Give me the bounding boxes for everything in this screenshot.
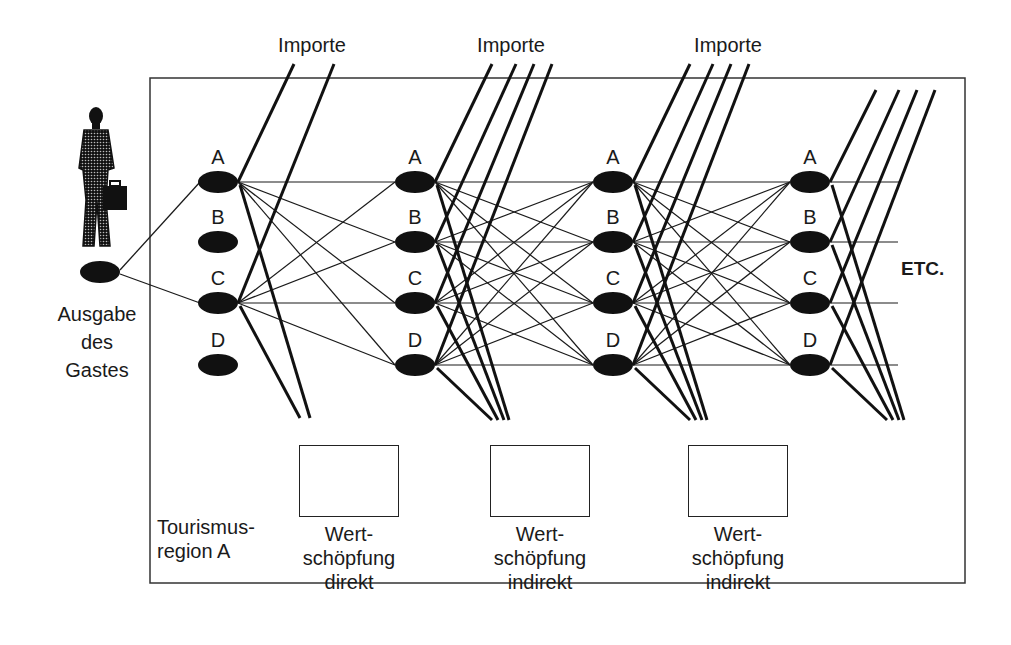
node-col3-c [593,292,633,314]
caption-line: Wert- [692,522,784,546]
guest-caption: Ausgabe des Gastes [58,300,137,384]
imports-label-3: Importe [694,34,762,57]
node-col4-d [790,354,830,376]
guest-caption-line-3: Gastes [58,356,137,384]
node-label-col1-d: D [208,329,228,352]
node-col2-d [395,354,435,376]
import-lines-col1 [238,64,334,303]
node-col3-d [593,354,633,376]
node-label-col3-a: A [603,146,623,169]
node-col3-b [593,231,633,253]
value-added-indirect-2-caption: Wert- schöpfung indirekt [692,522,784,594]
imports-label-1: Importe [278,34,346,57]
node-col1-a [198,171,238,193]
nodes [80,171,830,376]
guest-caption-line-1: Ausgabe [58,300,137,328]
caption-line: schöpfung [692,546,784,570]
money-box-indirect-2 [688,445,788,517]
node-col1-c [198,292,238,314]
node-label-col3-d: D [603,329,623,352]
node-label-col4-c: C [800,267,820,290]
links-col3-col4 [633,182,790,365]
region-caption-line-1: Tourismus- [157,515,255,539]
node-label-col1-a: A [208,146,228,169]
node-col4-c [790,292,830,314]
node-label-col4-a: A [800,146,820,169]
node-label-col4-b: B [800,206,820,229]
region-caption: Tourismus- region A [157,515,255,563]
node-col2-a [395,171,435,193]
node-col2-c [395,292,435,314]
node-label-col4-d: D [800,329,820,352]
node-label-col2-d: D [405,329,425,352]
guest-node [80,261,120,283]
links-col1-col2 [238,182,395,365]
node-col1-b [198,231,238,253]
node-col3-a [593,171,633,193]
node-label-col2-c: C [405,267,425,290]
node-col4-a [790,171,830,193]
leakage-lines-col1 [240,185,310,418]
money-box-direct [299,445,399,517]
businessman-icon [79,107,127,246]
node-label-col1-b: B [208,206,228,229]
caption-line: indirekt [692,570,784,594]
node-label-col3-b: B [603,206,623,229]
node-label-col2-b: B [405,206,425,229]
value-added-direct-caption: Wert- schöpfung direkt [303,522,395,594]
region-caption-line-2: region A [157,539,255,563]
money-box-indirect-1 [490,445,590,517]
links-col2-col3 [435,182,593,365]
imports-label-2: Importe [477,34,545,57]
node-col1-d [198,354,238,376]
node-col4-b [790,231,830,253]
caption-line: Wert- [494,522,586,546]
node-label-col3-c: C [603,267,623,290]
caption-line: indirekt [494,570,586,594]
value-added-indirect-1-caption: Wert- schöpfung indirekt [494,522,586,594]
node-col2-b [395,231,435,253]
guest-caption-line-2: des [58,328,137,356]
caption-line: Wert- [303,522,395,546]
node-label-col2-a: A [405,146,425,169]
caption-line: direkt [303,570,395,594]
etc-label: ETC. [901,258,944,280]
caption-line: schöpfung [494,546,586,570]
guest-spending-links [120,182,200,303]
caption-line: schöpfung [303,546,395,570]
node-label-col1-c: C [208,267,228,290]
